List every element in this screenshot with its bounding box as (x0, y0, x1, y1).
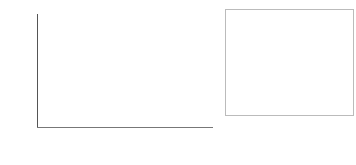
x-axis-line (37, 127, 213, 128)
y-axis-line (37, 14, 38, 128)
legend (225, 9, 354, 116)
